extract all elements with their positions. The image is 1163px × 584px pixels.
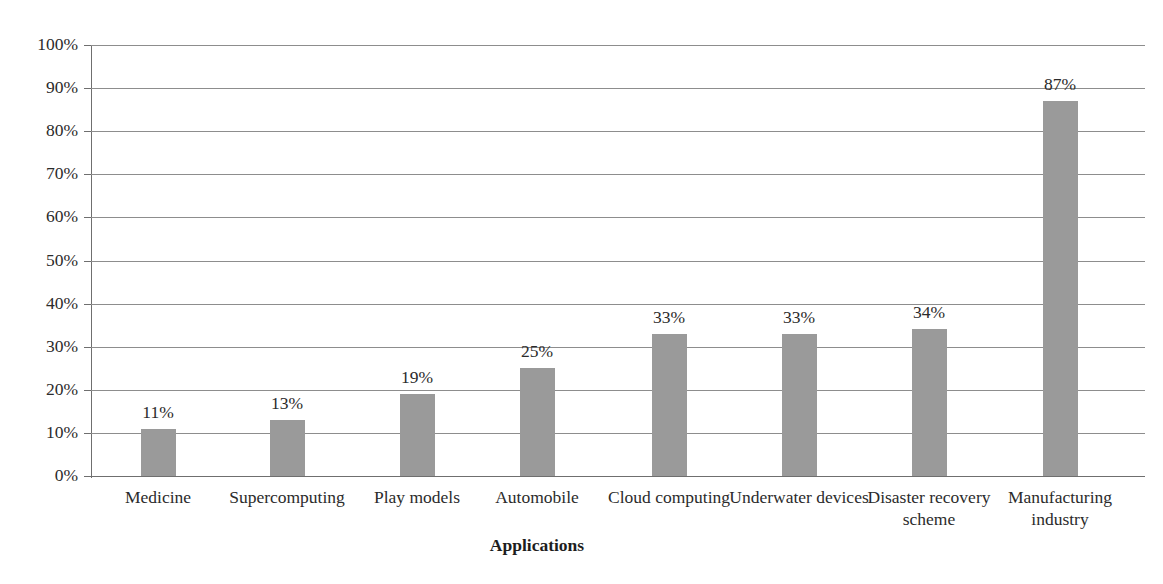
bar-value-label: 33% [754,309,844,327]
bar-chart: 0%10%20%30%40%50%60%70%80%90%100% 11%13%… [0,0,1163,584]
x-axis-category-label: Automobile [462,487,612,509]
bar-value-label: 11% [113,404,203,422]
y-tick-label: 70% [10,165,78,183]
gridline-100pct [91,45,1145,46]
bar-value-label: 34% [884,304,974,322]
bar-value-label: 19% [372,369,462,387]
gridline-50pct [91,261,1145,262]
bar[interactable] [1043,101,1078,476]
y-tick-label: 90% [10,79,78,97]
gridline-0pct [91,476,1145,477]
gridline-20pct [91,390,1145,391]
x-axis-category-label: Cloud computing [594,487,744,509]
bar[interactable] [782,334,817,476]
x-axis-title: Applications [437,535,637,556]
bar-value-label: 87% [1015,76,1105,94]
gridline-10pct [91,433,1145,434]
y-tick-label: 10% [10,424,78,442]
gridline-60pct [91,217,1145,218]
x-axis-category-label: Underwater devices [724,487,874,509]
gridline-90pct [91,88,1145,89]
x-axis-category-label: Medicine [83,487,233,509]
gridline-80pct [91,131,1145,132]
gridline-40pct [91,304,1145,305]
bar-value-label: 33% [624,309,714,327]
bar-value-label: 13% [242,395,332,413]
bar[interactable] [270,420,305,476]
x-axis-category-label: Disaster recovery scheme [854,487,1004,531]
x-axis-category-label: Supercomputing [212,487,362,509]
bar-value-label: 25% [492,343,582,361]
bar[interactable] [912,329,947,476]
x-axis-category-label: Manufacturing industry [985,487,1135,531]
y-tick-label: 0% [10,467,78,485]
bar[interactable] [652,334,687,476]
y-tick-label: 20% [10,381,78,399]
y-tick-label: 30% [10,338,78,356]
bar[interactable] [400,394,435,476]
bar[interactable] [520,368,555,476]
y-tick-label: 80% [10,122,78,140]
bar[interactable] [141,429,176,476]
y-tick-label: 50% [10,252,78,270]
y-tick-label: 40% [10,295,78,313]
gridline-70pct [91,174,1145,175]
y-tick-label: 100% [10,36,78,54]
y-tick-label: 60% [10,208,78,226]
gridline-30pct [91,347,1145,348]
